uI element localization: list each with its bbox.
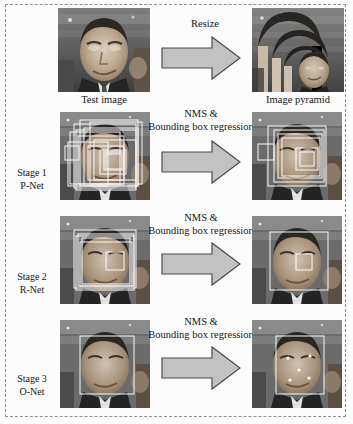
arrow-pnet-nms (160, 138, 242, 186)
stage-1-line1: Stage 1 (17, 167, 47, 178)
stage-label-3: Stage 3 O-Net (8, 373, 56, 398)
arrow-rnet-nms (160, 240, 242, 288)
panel-rnet-output (252, 216, 342, 304)
panel-onet-output (252, 320, 342, 408)
mtcnn-pipeline-figure: Test image Resize (0, 0, 353, 424)
arrow-resize (160, 34, 242, 82)
stage-1-line2: P-Net (20, 180, 43, 191)
panel-rnet-input (60, 216, 150, 304)
caption-test-image: Test image (58, 94, 150, 106)
onet-nms-line1: NMS & (184, 316, 218, 327)
pnet-nms-line2: Bounding box regression (148, 121, 254, 132)
arrow-rnet-nms-label: NMS & Bounding box regression (140, 212, 262, 237)
rnet-nms-line2: Bounding box regression (148, 225, 254, 236)
stage-label-1: Stage 1 P-Net (8, 167, 56, 192)
stage-3-line1: Stage 3 (17, 373, 47, 384)
arrow-onet-nms (160, 344, 242, 392)
panel-onet-input (60, 320, 150, 408)
stage-label-2: Stage 2 R-Net (8, 271, 56, 296)
stage-3-line2: O-Net (20, 386, 45, 397)
arrow-resize-label: Resize (166, 18, 244, 31)
caption-image-pyramid: Image pyramid (252, 94, 344, 106)
stage-2-line2: R-Net (20, 284, 44, 295)
panel-test-image (58, 8, 150, 92)
stage-2-line1: Stage 2 (17, 271, 47, 282)
rnet-nms-line1: NMS & (184, 212, 218, 223)
pnet-nms-line1: NMS & (184, 108, 218, 119)
panel-pnet-input (60, 112, 150, 200)
arrow-onet-nms-label: NMS & Bounding box regression (140, 316, 262, 341)
panel-pnet-output (252, 112, 342, 200)
arrow-pnet-nms-label: NMS & Bounding box regression (140, 108, 262, 133)
onet-nms-line2: Bounding box regression (148, 329, 254, 340)
panel-image-pyramid (252, 8, 344, 92)
